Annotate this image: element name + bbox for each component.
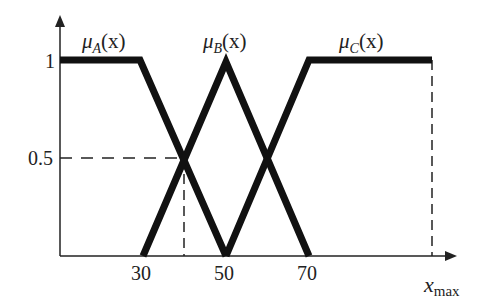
x-tick-70: 70 xyxy=(297,262,317,284)
y-tick-1: 1 xyxy=(45,50,55,72)
x-tick-30: 30 xyxy=(131,262,151,284)
y-tick-0.5: 0.5 xyxy=(28,147,53,169)
label-muC: μC(x) xyxy=(338,29,383,56)
series-muC xyxy=(226,60,432,256)
y-axis-arrow-icon xyxy=(55,15,65,27)
series-muB xyxy=(143,62,309,256)
x-axis-arrow-icon xyxy=(445,251,457,261)
x-tick-50: 50 xyxy=(214,262,234,284)
label-muB: μB(x) xyxy=(202,29,247,56)
x-tick-xmax: xmax xyxy=(423,272,460,299)
membership-chart: μA(x) μB(x) μC(x) 1 0.5 30 50 70 xmax xyxy=(0,0,487,305)
label-muA: μA(x) xyxy=(81,29,126,56)
